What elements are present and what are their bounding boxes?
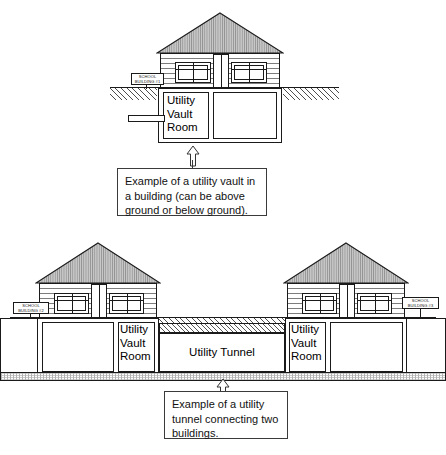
- window-mullion-horizontal: [176, 69, 210, 70]
- utility-vault-room-label: Utility Vault Room: [167, 94, 211, 135]
- right-basement-room: [330, 322, 403, 372]
- sign-line-2: BUILDING #2: [18, 309, 44, 314]
- window-mullion-horizontal: [55, 300, 88, 301]
- utility-tunnel-label: Utility Tunnel: [159, 346, 285, 358]
- window-right: [357, 293, 392, 314]
- right-adjacent-stub: [406, 318, 446, 376]
- ground-hatch-right: [283, 87, 339, 100]
- right-utility-vault-room-label: Utility Vault Room: [291, 323, 331, 364]
- diagram-canvas: SCHOOL BUILDING #1 Utility Vault Room Ex…: [0, 0, 446, 455]
- window-mullion-vertical: [72, 294, 73, 313]
- door-split-line: [347, 285, 348, 318]
- sign-post: [146, 85, 147, 89]
- top-callout-box: Example of a utility vault in a building…: [117, 168, 267, 216]
- right-building-roof: [283, 242, 409, 284]
- window-left: [302, 293, 337, 314]
- window-right: [231, 62, 267, 83]
- door-split-line: [221, 55, 222, 88]
- window-right: [109, 293, 144, 314]
- window-mullion-horizontal: [110, 300, 143, 301]
- vault-callout-arrow: [186, 145, 200, 167]
- sign-line-2: BUILDING #1: [135, 80, 161, 85]
- roof-shape: [156, 12, 284, 54]
- ground-hatch-texture: [110, 87, 157, 100]
- door-split-line: [99, 285, 100, 318]
- window-mullion-horizontal: [303, 300, 336, 301]
- ground-hatch-texture: [283, 87, 339, 100]
- right-building-walls: [287, 283, 405, 318]
- left-utility-vault-room-label: Utility Vault Room: [120, 323, 160, 364]
- window-mullion-vertical: [249, 63, 250, 82]
- left-school-building-sign: SCHOOL BUILDING #2: [13, 302, 49, 314]
- left-basement-room: [42, 322, 114, 372]
- roof-shape: [35, 242, 161, 284]
- window-mullion-vertical: [127, 294, 128, 313]
- school-building-sign: SCHOOL BUILDING #1: [131, 73, 164, 85]
- window-mullion-horizontal: [358, 300, 391, 301]
- bottom-callout-box: Example of a utility tunnel connecting t…: [164, 391, 288, 439]
- roof-shape: [283, 242, 409, 284]
- bottom-figure: SCHOOL BUILDING #2 SCHOOL BUILDING #3 Ut…: [0, 226, 446, 455]
- window-left: [175, 62, 211, 83]
- window-mullion-horizontal: [232, 69, 266, 70]
- left-adjacent-stub: [0, 318, 38, 376]
- window-mullion-vertical: [375, 294, 376, 313]
- tunnel-backfill-hatch: [159, 323, 285, 333]
- tunnel-backfill-texture: [160, 324, 284, 332]
- utility-pipe-stub: [128, 115, 165, 122]
- entry-door: [213, 54, 229, 88]
- top-figure: SCHOOL BUILDING #1 Utility Vault Room Ex…: [0, 0, 446, 225]
- left-building-walls: [39, 283, 157, 318]
- window-mullion-vertical: [193, 63, 194, 82]
- window-left: [54, 293, 89, 314]
- left-building-roof: [35, 242, 161, 284]
- top-building-walls: [160, 53, 280, 88]
- ground-hatch-left: [110, 87, 157, 100]
- top-building-roof: [156, 12, 284, 54]
- sign-line-2: BUILDING #3: [408, 304, 434, 309]
- sign-post: [420, 309, 421, 318]
- entry-door: [91, 284, 107, 318]
- entry-door: [339, 284, 355, 318]
- basement-room: [213, 92, 277, 139]
- window-mullion-vertical: [320, 294, 321, 313]
- right-school-building-sign: SCHOOL BUILDING #3: [402, 297, 439, 309]
